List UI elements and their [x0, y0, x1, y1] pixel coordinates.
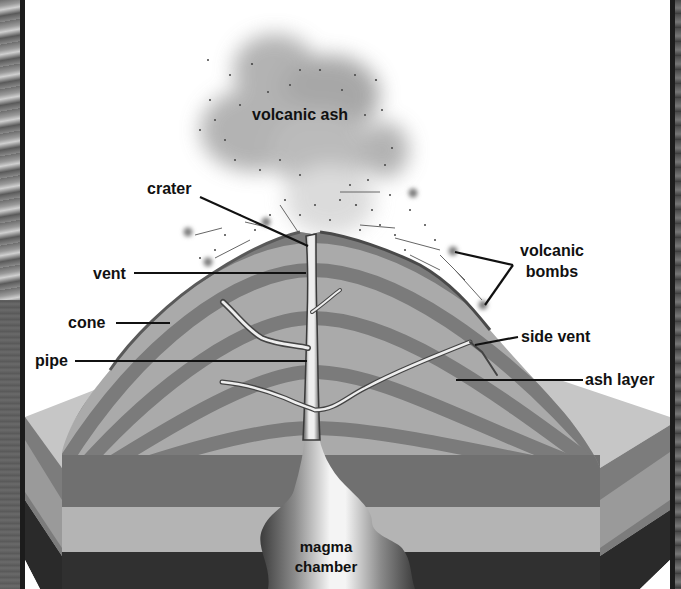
volcano-diagram: volcanic ash crater vent cone pipe volca… — [0, 0, 681, 589]
label-magma-chamber-line1: magma — [276, 538, 376, 556]
label-cone: cone — [68, 314, 105, 332]
label-volcanic-bombs-line2: bombs — [514, 263, 590, 281]
label-volcanic-bombs-line1: volcanic — [514, 242, 590, 260]
label-pipe: pipe — [35, 352, 68, 370]
label-magma-chamber-line2: chamber — [276, 558, 376, 576]
label-magma-chamber: magma chamber — [276, 538, 376, 576]
label-vent: vent — [93, 265, 126, 283]
ash-cloud — [200, 34, 409, 235]
label-crater: crater — [147, 180, 191, 198]
label-ash-layer: ash layer — [585, 371, 654, 389]
volcano-illustration — [0, 0, 681, 589]
label-side-vent: side vent — [521, 328, 590, 346]
label-volcanic-ash: volcanic ash — [252, 106, 348, 124]
label-volcanic-bombs: volcanic bombs — [514, 242, 590, 281]
